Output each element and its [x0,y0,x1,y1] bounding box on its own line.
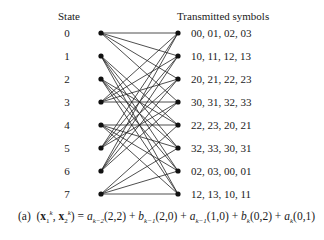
state-label: 3 [61,96,73,108]
formula-term: + ak−1(1,0) [177,210,228,222]
caption: (a) (x1k, x2k) = ak−2(2,2) + bk−1(2,0) +… [18,206,315,228]
formula-term: ak−2(2,2) [87,210,126,222]
transition-edge-0-1 [101,33,178,56]
formula-term: + bk(0,2) [229,210,272,222]
state-node-4 [98,122,103,127]
next-state-node-0 [175,30,180,35]
transition-edge-0-2 [101,33,178,79]
symbol-label: 20, 21, 22, 23 [191,73,252,85]
next-state-node-7 [175,191,180,196]
symbol-label: 00, 01, 02, 03 [191,27,252,39]
state-label: 1 [61,50,73,62]
symbol-label: 10, 11, 12, 13 [191,50,251,62]
state-label: 5 [61,142,73,154]
transition-edge-3-1 [101,56,178,102]
symbol-label: 02, 03, 00, 01 [191,165,252,177]
formula-term: + bk−1(2,0) [126,210,177,222]
state-node-5 [98,145,103,150]
transition-edge-5-0 [101,33,178,148]
state-node-3 [98,99,103,104]
next-state-node-1 [175,53,180,58]
next-state-node-6 [175,168,180,173]
formula-term: + ak(0,1) [272,210,315,222]
symbol-label: 30, 31, 32, 33 [191,96,252,108]
caption-formula: (x1k, x2k) = ak−2(2,2) + bk−1(2,0) + ak−… [37,210,316,222]
transition-edge-6-3 [101,102,178,171]
caption-label: (a) [18,210,31,222]
state-label: 6 [61,165,73,177]
state-node-0 [98,30,103,35]
trellis-graph [0,0,324,240]
next-state-node-4 [175,122,180,127]
symbol-label: 12, 13, 10, 11 [191,188,251,200]
transition-edge-4-6 [101,125,178,171]
state-node-2 [98,76,103,81]
state-node-6 [98,168,103,173]
symbol-label: 22, 23, 20, 21 [191,119,252,131]
state-label: 2 [61,73,73,85]
state-label: 7 [61,188,73,200]
state-label: 4 [61,119,73,131]
transition-edge-7-5 [101,148,178,194]
next-state-node-3 [175,99,180,104]
state-node-1 [98,53,103,58]
next-state-node-5 [175,145,180,150]
transition-edge-7-6 [101,171,178,194]
symbol-label: 32, 33, 30, 31 [191,142,252,154]
state-label: 0 [61,27,73,39]
next-state-node-2 [175,76,180,81]
state-node-7 [98,191,103,196]
